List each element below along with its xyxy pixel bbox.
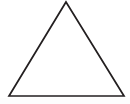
figure-canvas: Triangle — [0, 0, 130, 104]
triangle-figure: Triangle — [0, 0, 130, 104]
triangle-shape — [9, 2, 124, 96]
